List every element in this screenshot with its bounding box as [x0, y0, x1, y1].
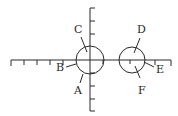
leader-a: [80, 74, 83, 83]
label-d: D: [137, 23, 146, 36]
leader-e: [144, 62, 154, 67]
label-c: C: [74, 23, 82, 36]
label-f: F: [138, 84, 146, 97]
leader-d: [134, 38, 140, 53]
leader-c: [81, 37, 87, 52]
diagram: C B A D E F: [0, 0, 178, 116]
leader-b: [66, 64, 76, 67]
label-e: E: [156, 63, 164, 76]
label-b: B: [56, 61, 64, 74]
label-a: A: [73, 84, 83, 97]
